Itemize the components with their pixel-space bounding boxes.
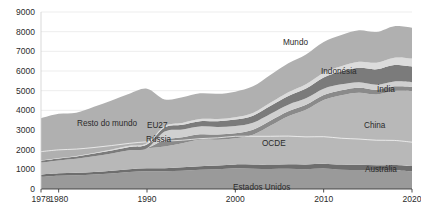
- y-tick-label-8000: 8000: [16, 27, 35, 37]
- y-tick-label-4000: 4000: [16, 105, 35, 115]
- series-label-indonesia: Indonésia: [321, 67, 357, 76]
- series-label-eu27: EU27: [147, 121, 168, 130]
- x-tick-label-1990: 1990: [138, 194, 157, 204]
- series-label-india: Índia: [377, 84, 395, 94]
- stacked-area-chart: 1978198019902000201020200100020003000400…: [0, 0, 421, 222]
- y-tick-label-5000: 5000: [16, 86, 35, 96]
- y-tick-label-0: 0: [30, 184, 35, 194]
- y-tick-label-6000: 6000: [16, 66, 35, 76]
- series-label-china: China: [364, 121, 386, 130]
- series-label-resto-do-mundo: Resto do mundo: [77, 119, 138, 128]
- y-tick-label-7000: 7000: [16, 46, 35, 56]
- x-tick-label-1980: 1980: [49, 194, 68, 204]
- series-label-mundo: Mundo: [283, 38, 308, 47]
- x-tick-label-1978: 1978: [32, 194, 51, 204]
- chart-canvas: 1978198019902000201020200100020003000400…: [0, 0, 421, 222]
- x-tick-label-2010: 2010: [314, 194, 333, 204]
- y-tick-label-9000: 9000: [16, 7, 35, 17]
- y-tick-label-2000: 2000: [16, 145, 35, 155]
- y-tick-label-3000: 3000: [16, 125, 35, 135]
- x-tick-label-2000: 2000: [226, 194, 245, 204]
- y-tick-label-1000: 1000: [16, 164, 35, 174]
- x-tick-label-2020: 2020: [403, 194, 421, 204]
- series-label-russia: Rússia: [146, 135, 171, 144]
- series-label-estados-unidos: Estados Unidos: [233, 183, 290, 192]
- series-label-australia: Austrália: [365, 165, 397, 174]
- series-label-ocde: OCDE: [262, 139, 286, 148]
